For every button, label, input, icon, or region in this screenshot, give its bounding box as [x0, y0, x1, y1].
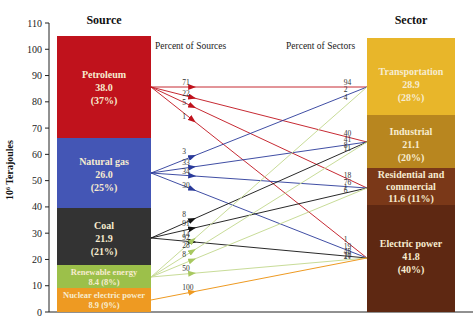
- industrial-label: Industrial: [390, 126, 433, 137]
- percent-of-source-label: 22: [182, 89, 190, 98]
- y-tick-label: 110: [27, 18, 42, 29]
- petroleum-value: 38.0: [95, 82, 113, 93]
- residential-label-line2: commercial: [386, 181, 436, 192]
- percent-of-source-label: 71: [182, 78, 190, 87]
- y-tick-label: 50: [32, 175, 42, 186]
- coal-label: Coal: [94, 220, 114, 231]
- percent-of-source-label: 28: [182, 241, 190, 250]
- nuclear-value: 8.9 (9%): [88, 300, 119, 310]
- y-tick-label: 40: [32, 201, 42, 212]
- petroleum-label: Petroleum: [82, 69, 127, 80]
- electric-power-percent: (40%): [398, 264, 425, 276]
- y-tick-label: 10: [32, 280, 42, 291]
- y-tick-label: 100: [27, 44, 42, 55]
- y-tick-label: 0: [37, 307, 42, 318]
- source-header: Source: [86, 13, 122, 27]
- sector-bar: Transportation 28.9 (28%) Industrial 21.…: [367, 38, 455, 312]
- coal-value: 21.9: [95, 233, 113, 244]
- transportation-value: 28.9: [402, 79, 420, 90]
- nuclear-label: Nuclear electric power: [63, 290, 145, 300]
- transportation-label: Transportation: [379, 66, 444, 77]
- percent-of-source-label: 34: [182, 167, 190, 176]
- residential-label-line1: Residential and: [378, 169, 445, 180]
- y-axis-label: 10⁶ Terajoules: [4, 140, 15, 200]
- arrow-icon: [192, 119, 194, 121]
- y-tick-label: 60: [32, 149, 42, 160]
- source-bar: Petroleum 38.0 (37%) Natural gas 26.0 (2…: [57, 36, 151, 312]
- percent-of-source-label: 1: [182, 112, 186, 121]
- y-tick-label: 20: [32, 254, 42, 265]
- energy-flow-chart: Source Sector Percent of Sources Percent…: [0, 0, 473, 332]
- flow-lines: 7194224051811323341347630198891192481442…: [151, 78, 367, 300]
- y-tick-label: 90: [32, 70, 42, 81]
- percent-of-source-label: 8: [182, 210, 186, 219]
- renewable-label: Renewable energy: [71, 267, 138, 277]
- percent-of-source-label: 3: [182, 147, 186, 156]
- industrial-percent: (20%): [398, 152, 425, 164]
- electric-power-value: 41.8: [402, 251, 420, 262]
- percent-of-sector-label: 11: [344, 144, 351, 153]
- natural-gas-percent: (25%): [91, 182, 118, 194]
- percent-of-source-label: 30: [182, 181, 190, 190]
- transportation-percent: (28%): [398, 92, 425, 104]
- percent-of-source-label: 5: [182, 98, 186, 107]
- petroleum-percent: (37%): [91, 95, 118, 107]
- natural-gas-label: Natural gas: [79, 156, 129, 167]
- industrial-value: 21.1: [402, 139, 420, 150]
- percent-of-source-label: 8: [182, 250, 186, 259]
- percent-of-source-label: 33: [182, 158, 190, 167]
- natural-gas-value: 26.0: [95, 169, 113, 180]
- coal-percent: (21%): [91, 246, 118, 258]
- renewable-value: 8.4 (8%): [88, 277, 119, 287]
- percent-of-sources-label: Percent of Sources: [155, 41, 227, 51]
- y-tick-label: 70: [32, 123, 42, 134]
- percent-of-sector-label: 6: [344, 186, 348, 195]
- residential-value: 11.6 (11%): [388, 193, 434, 205]
- percent-of-sector-label: 21: [344, 252, 352, 261]
- electric-power-label: Electric power: [380, 238, 443, 249]
- percent-of-sector-label: 4: [344, 93, 348, 102]
- sector-header: Sector: [395, 13, 428, 27]
- percent-of-source-label: 91: [182, 219, 190, 228]
- percent-of-source-label: 50: [182, 264, 190, 273]
- y-tick-label: 30: [32, 228, 42, 239]
- percent-of-source-label: 100: [182, 283, 194, 292]
- y-tick-label: 80: [32, 96, 42, 107]
- percent-of-sectors-label: Percent of Sectors: [286, 41, 355, 51]
- percent-of-source-label: 14: [182, 230, 190, 239]
